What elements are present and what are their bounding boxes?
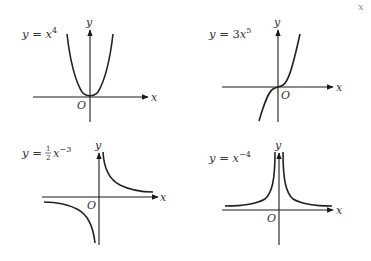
equation-label: y = [21,146,42,160]
graph-y-x-neg4: y = x−4 x y O [208,139,343,245]
fraction-numerator: 1 [46,145,50,153]
curve-branch-q1 [103,152,153,192]
equation-label: y = x−4 [208,150,251,165]
equation-label: y = 3x5 [208,26,251,41]
x-axis-label: x [336,204,343,217]
origin-label: O [77,99,86,112]
corner-fragment: x [358,1,364,12]
origin-label: O [267,212,276,225]
equation-label: y = x4 [21,26,57,41]
y-axis-label: y [85,16,93,29]
graph-y-3x5: y = 3x5 x y O [208,16,343,122]
x-axis-label: x [160,191,167,204]
origin-label: O [87,199,96,212]
equation-tail: x−3 [53,145,71,160]
x-axis-label: x [336,81,343,94]
y-axis-label: y [94,139,102,152]
y-axis-label: y [273,16,281,29]
y-axis-label: y [274,139,282,152]
fraction-denominator: 2 [46,154,50,162]
graph-y-half-x-neg3: y = 1 2 x−3 x y O [21,139,167,245]
x-axis-label: x [151,91,158,104]
graph-y-x4: y = x4 x y O [21,16,158,122]
origin-label: O [281,89,290,102]
curve-branch-right [283,152,332,206]
curve [259,34,300,121]
power-function-graphs: x y = x4 x y O y = 3x5 x y O y = 1 2 x−3… [0,0,371,261]
